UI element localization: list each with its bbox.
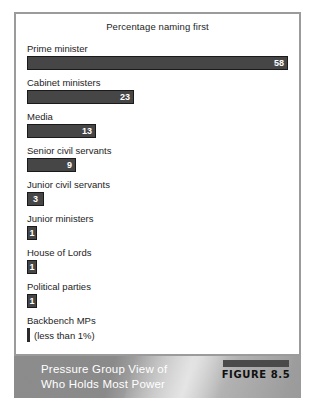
bar-group-media: Media 13	[27, 110, 289, 138]
bar-label: House of Lords	[27, 246, 289, 259]
bar-house-of-lords[interactable]: 1	[27, 260, 37, 274]
figure-tab-decoration	[223, 360, 289, 367]
bar-group-junior-civil-servants: Junior civil servants 3	[27, 178, 289, 206]
bar-group-backbench-mps: Backbench MPs (less than 1%)	[27, 314, 289, 342]
figure-caption-band: Pressure Group View of Who Holds Most Po…	[14, 356, 301, 398]
bar-value: 58	[274, 59, 287, 68]
bar-value: 1	[28, 229, 36, 238]
bar-label: Prime minister	[27, 42, 289, 55]
bar-note-less-than-one-percent: (less than 1%)	[34, 328, 95, 342]
bar-label: Junior civil servants	[27, 178, 289, 191]
bar-group-junior-ministers: Junior ministers 1	[27, 212, 289, 240]
bar-row: 1	[27, 226, 289, 240]
bar-row: 13	[27, 124, 289, 138]
bar-prime-minister[interactable]: 58	[27, 56, 288, 70]
bar-value: 3	[28, 195, 43, 204]
bar-row: 3	[27, 192, 289, 206]
bar-value: 1	[28, 263, 36, 272]
bar-cabinet-ministers[interactable]: 23	[27, 90, 134, 104]
bar-group-prime-minister: Prime minister 58	[27, 42, 289, 70]
caption-line-1: Pressure Group View of	[41, 362, 167, 377]
bar-political-parties[interactable]: 1	[27, 294, 37, 308]
bar-label: Senior civil servants	[27, 144, 289, 157]
caption-line-2: Who Holds Most Power	[41, 377, 167, 392]
bar-label: Cabinet ministers	[27, 76, 289, 89]
bar-label: Political parties	[27, 280, 289, 293]
bar-junior-civil-servants[interactable]: 3	[27, 192, 44, 206]
bar-value: 9	[67, 161, 75, 170]
bar-value: 1	[28, 297, 36, 306]
bar-label: Backbench MPs	[27, 314, 289, 327]
bar-senior-civil-servants[interactable]: 9	[27, 158, 76, 172]
bar-junior-ministers[interactable]: 1	[27, 226, 37, 240]
bar-row: 9	[27, 158, 289, 172]
bar-chart-bars: Prime minister 58 Cabinet ministers 23	[27, 42, 289, 348]
bar-row: 23	[27, 90, 289, 104]
bar-value: 13	[82, 127, 95, 136]
figure-number-label: FIGURE 8.5	[219, 369, 293, 380]
chart-title: Percentage naming first	[16, 21, 299, 32]
bar-label: Media	[27, 110, 289, 123]
figure-number-badge: FIGURE 8.5	[219, 360, 293, 380]
bar-group-cabinet-ministers: Cabinet ministers 23	[27, 76, 289, 104]
bar-row: 58	[27, 56, 289, 70]
bar-label: Junior ministers	[27, 212, 289, 225]
bar-backbench-mps[interactable]	[27, 328, 30, 342]
figure-caption-text: Pressure Group View of Who Holds Most Po…	[41, 362, 167, 392]
figure-container: Percentage naming first Prime minister 5…	[0, 0, 316, 405]
bar-group-political-parties: Political parties 1	[27, 280, 289, 308]
bar-row: (less than 1%)	[27, 328, 289, 342]
bar-group-house-of-lords: House of Lords 1	[27, 246, 289, 274]
chart-panel: Percentage naming first Prime minister 5…	[14, 12, 301, 356]
bar-media[interactable]: 13	[27, 124, 96, 138]
bar-row: 1	[27, 260, 289, 274]
bar-value: 23	[120, 93, 133, 102]
bar-group-senior-civil-servants: Senior civil servants 9	[27, 144, 289, 172]
bar-row: 1	[27, 294, 289, 308]
